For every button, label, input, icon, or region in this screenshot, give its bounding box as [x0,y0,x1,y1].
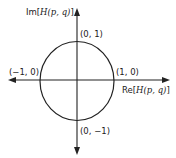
point-label-bottom: (0, −1) [80,127,110,136]
imag-axis-label: Im[H(p, q)] [26,8,74,17]
imag-axis-up-arrow-icon [74,8,80,16]
real-axis-label: Re[H(p, q)] [122,86,170,95]
point-label-right: (1, 0) [116,68,139,77]
imag-axis-down-arrow-icon [74,147,80,155]
real-axis-left-arrow-icon [8,77,16,83]
point-label-top: (0, 1) [80,30,103,39]
point-label-left: (−1, 0) [9,68,39,77]
real-axis-right-arrow-icon [162,77,170,83]
